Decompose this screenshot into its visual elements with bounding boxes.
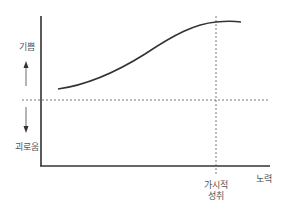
joy-curve bbox=[58, 21, 241, 89]
pain-label: 괴로움 bbox=[15, 142, 39, 153]
visible-achievement-line1: 가시적 bbox=[201, 180, 231, 191]
effort-label: 노력 bbox=[256, 174, 272, 185]
down-arrowhead-icon bbox=[24, 126, 29, 133]
diagram-canvas bbox=[0, 0, 287, 215]
visible-achievement-line2: 성취 bbox=[201, 191, 231, 202]
visible-achievement-label: 가시적 성취 bbox=[201, 180, 231, 202]
joy-label: 기쁨 bbox=[19, 42, 35, 53]
up-arrowhead-icon bbox=[24, 61, 29, 68]
